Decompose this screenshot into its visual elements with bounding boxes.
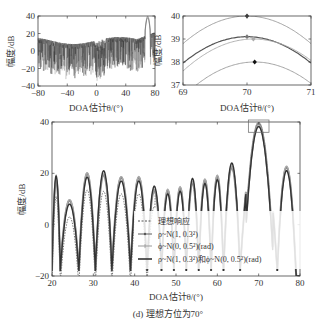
- x-tick-label: 80: [296, 278, 306, 288]
- y-tick-label: −40: [21, 81, 36, 91]
- figure: −80−400408040200−20−40 幅度/dB DOA估计θ/(°) …: [0, 0, 324, 323]
- legend-label: 理想响应: [158, 216, 190, 226]
- y-tick-label: 20: [26, 29, 36, 39]
- x-tick-label: 71: [307, 87, 316, 97]
- y-tick-label: 38: [171, 57, 181, 67]
- figure-caption: (d) 理想方位为70°: [133, 308, 204, 319]
- main-legend: 理想响应 ρ~N(1, 0.3²) ϕ~N(0, 0.5²)(rad) ρ~N(…: [134, 211, 302, 269]
- x-tick-label: 80: [151, 88, 161, 98]
- y-tick-label: 39: [171, 34, 181, 44]
- main-panel: 2030405060708040200−20 幅度/dB DOA估计θ/(°) …: [16, 117, 305, 302]
- x-tick-label: 70: [254, 278, 264, 288]
- top-right-xlabel: DOA估计θ/(°): [220, 102, 274, 113]
- zoom-series-line-1: [183, 37, 311, 63]
- legend-marker: [144, 233, 146, 235]
- top-right-ylabel: 幅度/dB: [152, 34, 163, 65]
- top-left-panel: −80−400408040200−20−40 幅度/dB DOA估计θ/(°): [5, 11, 160, 113]
- x-tick-label: 50: [172, 278, 182, 288]
- x-tick-label: 70: [243, 87, 253, 97]
- top-left-plot-lines: [38, 16, 155, 81]
- x-tick-label: 40: [121, 88, 131, 98]
- legend-label: ρ~N(1, 0.3²)和ϕ~N(0, 0.5²)(rad): [158, 255, 262, 264]
- main-ylabel: 幅度/dB: [16, 183, 27, 214]
- legend-label: ρ~N(1, 0.3²): [158, 230, 198, 239]
- peak-marker-3: [252, 60, 256, 65]
- top-right-panel: 69707140393837 幅度/dB DOA估计θ/(°): [152, 11, 316, 113]
- top-left-xlabel: DOA估计θ/(°): [69, 102, 123, 113]
- y-tick-label: 0: [31, 46, 36, 56]
- x-tick-label: −40: [60, 88, 75, 98]
- legend-label: ϕ~N(0, 0.5²)(rad): [158, 242, 214, 251]
- x-tick-label: 0: [94, 88, 99, 98]
- peak-marker-1: [245, 34, 249, 39]
- x-tick-label: 30: [89, 278, 99, 288]
- top-left-ylabel: 幅度/dB: [5, 35, 16, 66]
- y-tick-label: 40: [26, 11, 36, 21]
- y-tick-label: 0: [45, 220, 50, 230]
- y-tick-label: −20: [35, 271, 50, 281]
- y-tick-label: 40: [171, 11, 181, 21]
- y-tick-label: 40: [40, 117, 50, 127]
- x-tick-label: 40: [130, 278, 140, 288]
- top-right-frame: [183, 16, 311, 85]
- y-tick-label: 37: [171, 80, 181, 90]
- y-tick-label: −20: [21, 64, 36, 74]
- x-tick-label: 60: [213, 278, 223, 288]
- main-xlabel: DOA估计θ/(°): [149, 291, 203, 302]
- y-tick-label: 20: [40, 168, 50, 178]
- zoom-series-line-2: [183, 39, 311, 71]
